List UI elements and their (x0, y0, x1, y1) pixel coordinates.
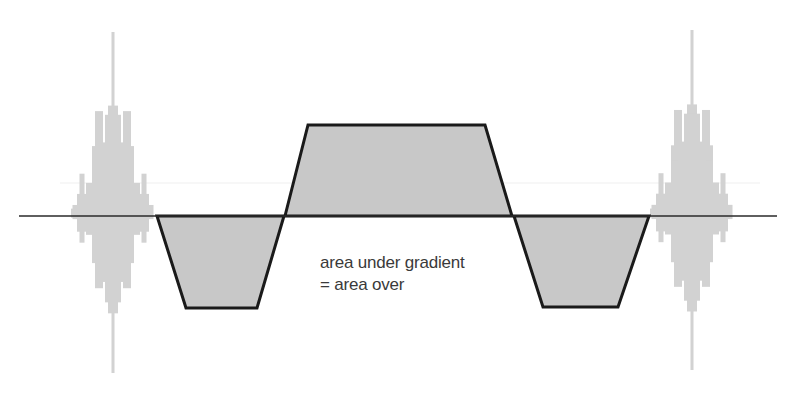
right-rf-pulse-icon (650, 30, 733, 370)
annotation-line-1: area under gradient (320, 252, 465, 274)
area-annotation: area under gradient = area over (320, 252, 465, 296)
negative-lobe-left (157, 216, 284, 308)
gradient-diagram (0, 0, 803, 397)
positive-lobe-center (285, 125, 512, 216)
negative-lobe-right (514, 216, 649, 307)
left-rf-pulse-icon (71, 32, 154, 373)
annotation-line-2: = area over (320, 274, 465, 296)
